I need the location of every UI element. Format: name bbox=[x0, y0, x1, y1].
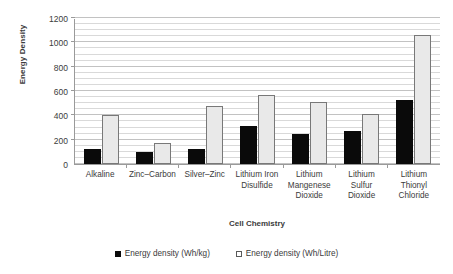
bar-chart: Energy Density 020040060080010001200 Alk… bbox=[0, 0, 453, 274]
bar-energy-density-wh-kg[interactable] bbox=[292, 134, 309, 164]
y-axis-tick-label: 1000 bbox=[49, 39, 68, 48]
x-axis-tickmark bbox=[126, 164, 127, 168]
x-axis-tickmark bbox=[387, 164, 388, 168]
bar-group bbox=[179, 19, 231, 164]
filled-square-icon bbox=[115, 251, 121, 257]
y-axis-tick-label: 200 bbox=[54, 136, 68, 145]
y-axis-tick-label: 800 bbox=[54, 63, 68, 72]
x-axis-category-label-line: Sulfur bbox=[336, 181, 386, 192]
x-axis-category-label-line: Silver–Zinc bbox=[180, 170, 230, 181]
bar-energy-density-wh-kg[interactable] bbox=[84, 149, 101, 164]
x-axis-category-label-line: Zinc–Carbon bbox=[127, 170, 177, 181]
x-axis-category-labels: AlkalineZinc–CarbonSilver–ZincLithium Ir… bbox=[74, 170, 440, 202]
y-axis-tick-label: 600 bbox=[54, 88, 68, 97]
x-axis-category-label-line: Mangenese bbox=[284, 181, 334, 192]
plot-area bbox=[74, 19, 440, 165]
bar-energy-density-wh-litre[interactable] bbox=[206, 106, 223, 164]
bar-energy-density-wh-litre[interactable] bbox=[414, 35, 431, 164]
x-axis-category-label-line: Thionyl bbox=[389, 181, 439, 192]
x-axis-category-label-line: Dioxide bbox=[336, 191, 386, 202]
bar-energy-density-wh-litre[interactable] bbox=[362, 114, 379, 164]
x-axis-category-label: LithiumThionylChloride bbox=[388, 170, 440, 202]
x-axis-title: Cell Chemistry bbox=[74, 219, 440, 228]
x-axis-tickmark bbox=[335, 164, 336, 168]
x-axis-category-label: Alkaline bbox=[74, 170, 126, 202]
y-axis-title: Energy Density bbox=[18, 0, 27, 110]
legend-item[interactable]: Energy density (Wh/Litre) bbox=[236, 249, 338, 258]
x-axis-category-label: Lithium IronDisulfide bbox=[231, 170, 283, 202]
x-axis-category-label-line: Dioxide bbox=[284, 191, 334, 202]
legend-item[interactable]: Energy density (Wh/kg) bbox=[115, 249, 210, 258]
bar-energy-density-wh-litre[interactable] bbox=[154, 143, 171, 164]
x-axis-category-label: LithiumMangeneseDioxide bbox=[283, 170, 335, 202]
y-axis-tick-label: 1200 bbox=[49, 15, 68, 24]
bar-group bbox=[284, 19, 336, 164]
bar-energy-density-wh-kg[interactable] bbox=[188, 149, 205, 164]
bar-energy-density-wh-litre[interactable] bbox=[258, 95, 275, 164]
legend-item-label: Energy density (Wh/kg) bbox=[125, 249, 210, 258]
x-axis-category-label-line: Chloride bbox=[389, 191, 439, 202]
bar-group bbox=[336, 19, 388, 164]
y-axis-tick-label: 0 bbox=[63, 161, 68, 170]
x-axis-category-label-line: Lithium bbox=[284, 170, 334, 181]
y-axis-tick-labels: 020040060080010001200 bbox=[30, 0, 72, 274]
x-axis-category-label-line: Lithium bbox=[389, 170, 439, 181]
bar-group bbox=[388, 19, 440, 164]
bar-group bbox=[231, 19, 283, 164]
x-axis-category-label: LithiumSulfurDioxide bbox=[335, 170, 387, 202]
x-axis-category-label-line: Lithium Iron bbox=[232, 170, 282, 181]
hollow-square-icon bbox=[236, 251, 242, 257]
y-axis-tick-label: 400 bbox=[54, 112, 68, 121]
bar-energy-density-wh-litre[interactable] bbox=[310, 102, 327, 164]
gridline-major bbox=[75, 17, 440, 18]
bar-energy-density-wh-kg[interactable] bbox=[240, 126, 257, 164]
chart-legend: Energy density (Wh/kg)Energy density (Wh… bbox=[0, 249, 453, 258]
bar-energy-density-wh-kg[interactable] bbox=[136, 152, 153, 164]
x-axis-tickmark bbox=[230, 164, 231, 168]
bar-energy-density-wh-kg[interactable] bbox=[396, 100, 413, 164]
bar-group bbox=[127, 19, 179, 164]
x-axis-category-label-line: Lithium bbox=[336, 170, 386, 181]
legend-item-label: Energy density (Wh/Litre) bbox=[246, 249, 338, 258]
bar-energy-density-wh-litre[interactable] bbox=[102, 115, 119, 164]
bar-energy-density-wh-kg[interactable] bbox=[344, 131, 361, 164]
x-axis-tickmark bbox=[283, 164, 284, 168]
bars-layer bbox=[75, 19, 440, 164]
x-axis-category-label: Silver–Zinc bbox=[179, 170, 231, 202]
x-axis-category-label-line: Disulfide bbox=[232, 181, 282, 192]
bar-group bbox=[75, 19, 127, 164]
x-axis-category-label-line: Alkaline bbox=[75, 170, 125, 181]
x-axis-tickmark bbox=[178, 164, 179, 168]
x-axis-category-label: Zinc–Carbon bbox=[126, 170, 178, 202]
